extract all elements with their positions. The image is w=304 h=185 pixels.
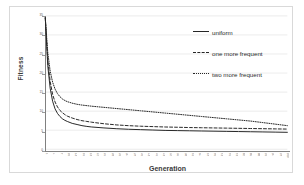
x-axis-tick-label: 25 [103,153,106,164]
y-axis-tick-mark [42,93,45,94]
x-axis-title: Generation [45,165,290,172]
x-axis-tick-label: 34 [125,153,128,164]
x-axis-tick-label: 73 [220,153,223,164]
x-axis-tick-label: 7 [60,153,63,164]
x-axis-tick-label: 85 [249,153,252,164]
x-axis-tick-label: 97 [279,153,282,164]
x-axis-tick-label: 100 [286,153,289,164]
x-axis-tick-label: 67 [206,153,209,164]
x-axis-tick-label: 91 [264,153,267,164]
x-axis-tick-labels: 1471013161922252831343740434649525558616… [45,153,290,165]
legend-line-dashed-icon [193,50,209,56]
x-axis-tick-label: 76 [228,153,231,164]
x-axis-tick-label: 49 [162,153,165,164]
x-axis-tick-label: 88 [257,153,260,164]
x-axis-tick-label: 52 [169,153,172,164]
legend-item-two-more-frequent[interactable]: two more frequent [193,66,293,82]
x-axis-tick-label: 40 [140,153,143,164]
x-axis-tick-label: 28 [111,153,114,164]
legend-label: one more frequent [212,50,263,57]
x-axis-tick-label: 1 [45,153,48,164]
x-axis-tick-label: 82 [242,153,245,164]
y-axis-title: Fitness [17,46,24,92]
y-axis-tick-mark [42,151,45,152]
x-axis-tick-label: 94 [271,153,274,164]
x-axis-tick-label: 64 [198,153,201,164]
y-axis-tick-mark [42,35,45,36]
x-axis-tick-label: 61 [191,153,194,164]
x-axis-tick-label: 70 [213,153,216,164]
legend-label: two more frequent [212,71,262,78]
x-axis-tick-label: 31 [118,153,121,164]
legend-line-dotted-icon [193,71,209,77]
y-axis-tick-mark [42,55,45,56]
y-axis-tick-mark [42,74,45,75]
legend-line-solid-icon [193,29,209,35]
x-axis-tick-label: 58 [184,153,187,164]
x-axis-tick-label: 19 [89,153,92,164]
x-axis-tick-label: 10 [67,153,70,164]
legend-item-uniform[interactable]: uniform [193,24,293,40]
y-axis-tick-mark [42,16,45,17]
x-axis-tick-label: 43 [147,153,150,164]
x-axis-tick-label: 55 [176,153,179,164]
y-axis-tick-mark [42,132,45,133]
x-axis-tick-label: 13 [74,153,77,164]
legend-item-one-more-frequent[interactable]: one more frequent [193,45,293,61]
chart-legend: uniform one more frequent two more frequ… [193,24,293,87]
x-axis-tick-label: 22 [96,153,99,164]
chart-figure: 05101520253035 1471013161922252831343740… [9,6,293,173]
x-axis-tick-label: 16 [82,153,85,164]
x-axis-tick-label: 79 [235,153,238,164]
x-axis-tick-label: 4 [52,153,55,164]
y-axis-tick-mark [42,112,45,113]
x-axis-tick-label: 37 [133,153,136,164]
legend-label: uniform [212,29,233,36]
x-axis-tick-label: 46 [155,153,158,164]
